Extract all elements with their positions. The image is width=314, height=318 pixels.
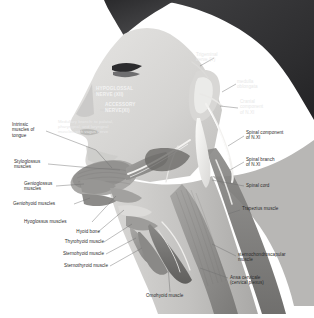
label-medullary-branch: Medullary branch: to palatal, pharyngeal… <box>58 119 154 134</box>
label-thyrohyoid-muscle: Thyrohyoid muscle <box>36 239 104 244</box>
label-trigeminal-nerve: Trigeminal nerve (V) <box>196 52 244 63</box>
label-sternothyroid-muscle: Sternothyroid muscle <box>30 263 108 268</box>
label-ansa-cervicale: Ansa cervicale (cervical plexus) <box>230 275 300 286</box>
label-hypoglossal-nerve: HYPOGLOSSAL NERVE (XII) <box>96 86 152 97</box>
anatomical-figure: HYPOGLOSSAL NERVE (XII) ACCESSORY NERVE(… <box>0 0 314 318</box>
label-hyoglossus-muscles: Hyoglossus muscles <box>24 219 94 224</box>
label-hyoid-bone: Hyoid bone <box>48 229 100 234</box>
label-styloglossus-muscles: Styloglossus muscles <box>14 159 58 170</box>
label-cranial-component: Cranial component of N.XI <box>240 99 288 115</box>
label-spinal-cord: Spinal cord <box>246 183 302 188</box>
label-genioglossus-muscles: Genioglossus muscles <box>24 181 68 192</box>
label-intrinsic-muscles-of-tongue: Intrinsic muscles of tongue <box>12 122 54 138</box>
label-sternohyoid-muscle: Sternohyoid muscle <box>32 251 104 256</box>
label-spinal-component: Spinal component of N.XI <box>246 130 310 141</box>
label-omohyoid-muscle: Omohyoid muscle <box>146 293 216 298</box>
label-medulla-oblongata: medulla oblongata <box>237 79 285 90</box>
label-trapezius-muscle: Trapezius muscle <box>242 206 304 211</box>
label-spinal-branch: Spinal branch of N.XI <box>246 157 306 168</box>
label-geniohyoid-muscles: Geniohyoid muscles <box>13 201 81 206</box>
label-accessory-nerve: ACCESSORY NERVE(XI) <box>105 102 157 113</box>
label-sternochondroscapular-muscle: sternochondroscapular muscle <box>238 252 312 263</box>
